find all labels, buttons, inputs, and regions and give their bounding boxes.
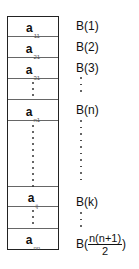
label-b1: B(1) <box>76 19 99 33</box>
vertical-ellipsis <box>32 210 34 224</box>
vertical-ellipsis <box>32 125 34 187</box>
cell-ellipsis-1 <box>8 79 58 100</box>
label-b-last: B(n(n+1)2) <box>76 231 126 257</box>
cell-ann: ann <box>8 229 58 249</box>
cell-a11: a11 <box>8 17 58 37</box>
cell-ellipsis-3 <box>8 207 58 229</box>
cell-a21: a21 <box>8 37 58 58</box>
vertical-ellipsis <box>32 82 34 96</box>
vertical-ellipsis <box>80 212 82 227</box>
cell-an1: an1 <box>8 100 58 121</box>
vertical-ellipsis <box>80 77 82 92</box>
cell-aij: aij <box>8 187 58 207</box>
label-bk: B(k) <box>76 195 98 209</box>
label-b3: B(3) <box>76 61 99 75</box>
cell-a31: a31 <box>8 58 58 79</box>
label-bn: B(n) <box>76 103 99 117</box>
storage-array: a11 a21 a31 an1 aij ann <box>7 16 59 250</box>
vertical-ellipsis <box>80 120 82 180</box>
fraction: n(n+1)2 <box>88 232 122 257</box>
cell-ellipsis-2 <box>8 121 58 187</box>
label-b2: B(2) <box>76 40 99 54</box>
